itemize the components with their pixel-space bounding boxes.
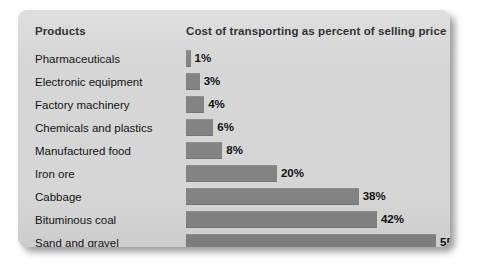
bar-track: 55% bbox=[186, 234, 444, 247]
bar-track: 3% bbox=[186, 73, 444, 90]
bar-track: 42% bbox=[186, 211, 444, 228]
chart-row: Bituminous coal42% bbox=[18, 209, 450, 231]
column-header-products: Products bbox=[35, 25, 86, 41]
chart-row: Iron ore20% bbox=[18, 163, 450, 185]
bar-track: 4% bbox=[186, 96, 444, 113]
row-label-electronic-equipment: Electronic equipment bbox=[35, 71, 142, 93]
row-label-manufactured-food: Manufactured food bbox=[35, 140, 131, 162]
bar bbox=[186, 211, 377, 228]
bar-value-label: 4% bbox=[204, 96, 225, 113]
row-label-bituminous-coal: Bituminous coal bbox=[35, 209, 116, 231]
bar-track: 1% bbox=[186, 50, 444, 67]
bar-value-label: 3% bbox=[200, 73, 221, 90]
bar bbox=[186, 188, 359, 205]
chart-row: Chemicals and plastics6% bbox=[18, 117, 450, 139]
bar bbox=[186, 234, 436, 247]
chart-row: Electronic equipment3% bbox=[18, 71, 450, 93]
bar bbox=[186, 165, 277, 182]
bar bbox=[186, 73, 200, 90]
bar bbox=[186, 96, 204, 113]
bar-value-label: 55% bbox=[436, 234, 450, 247]
row-label-sand-and-gravel: Sand and gravel bbox=[35, 232, 119, 247]
row-label-iron-ore: Iron ore bbox=[35, 163, 75, 185]
bar-value-label: 1% bbox=[191, 50, 212, 67]
bar-track: 6% bbox=[186, 119, 444, 136]
bar-track: 20% bbox=[186, 165, 444, 182]
row-label-factory-machinery: Factory machinery bbox=[35, 94, 130, 116]
row-label-chemicals-and-plastics: Chemicals and plastics bbox=[35, 117, 153, 139]
chart-row: Cabbage38% bbox=[18, 186, 450, 208]
chart-panel: Products Cost of transporting as percent… bbox=[18, 10, 450, 247]
chart-row: Sand and gravel55% bbox=[18, 232, 450, 247]
horizontal-bar-chart: Products Cost of transporting as percent… bbox=[18, 10, 450, 247]
row-label-cabbage: Cabbage bbox=[35, 186, 82, 208]
column-header-measure: Cost of transporting as percent of selli… bbox=[186, 25, 446, 41]
screenshot-canvas: Products Cost of transporting as percent… bbox=[0, 0, 480, 268]
bar-value-label: 8% bbox=[222, 142, 243, 159]
chart-row: Manufactured food8% bbox=[18, 140, 450, 162]
bar-value-label: 38% bbox=[359, 188, 386, 205]
bar-value-label: 20% bbox=[277, 165, 304, 182]
bar bbox=[186, 142, 222, 159]
bar-value-label: 42% bbox=[377, 211, 404, 228]
bar-track: 38% bbox=[186, 188, 444, 205]
row-label-pharmaceuticals: Pharmaceuticals bbox=[35, 48, 120, 70]
chart-row: Pharmaceuticals1% bbox=[18, 48, 450, 70]
chart-row: Factory machinery4% bbox=[18, 94, 450, 116]
bar-track: 8% bbox=[186, 142, 444, 159]
bar bbox=[186, 119, 213, 136]
bar-value-label: 6% bbox=[213, 119, 234, 136]
